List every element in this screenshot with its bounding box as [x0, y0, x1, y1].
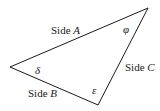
side-a-label: Side A	[51, 24, 80, 36]
angle-epsilon-label: ε	[92, 84, 97, 96]
triangle-figure: Side A Side B Side C δ φ ε	[0, 0, 160, 111]
side-c-label: Side C	[125, 61, 155, 73]
angle-phi-label: φ	[123, 23, 129, 35]
angle-delta-label: δ	[35, 64, 41, 76]
side-b-label: Side B	[28, 87, 57, 99]
triangle-diagram: Side A Side B Side C δ φ ε	[0, 0, 160, 111]
